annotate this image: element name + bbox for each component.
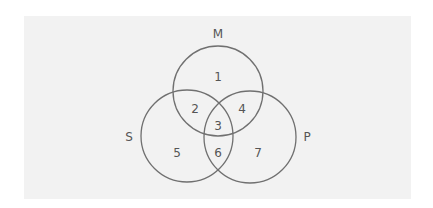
region-label-6: 6 [214,146,222,160]
region-label-5: 5 [173,146,181,160]
region-label-1: 1 [214,70,222,84]
region-labels: 1234567 [173,70,262,160]
region-label-3: 3 [214,119,222,133]
region-label-7: 7 [254,146,262,160]
region-label-4: 4 [238,102,246,116]
set-label-m: M [213,27,223,41]
set-label-s: S [125,130,133,144]
set-circles [141,46,296,183]
set-label-p: P [303,130,310,144]
venn-diagram: MSP 1234567 [0,0,433,208]
region-label-2: 2 [191,102,199,116]
diagram-stage: MSP 1234567 [0,0,433,208]
set-circle-p [204,91,296,183]
